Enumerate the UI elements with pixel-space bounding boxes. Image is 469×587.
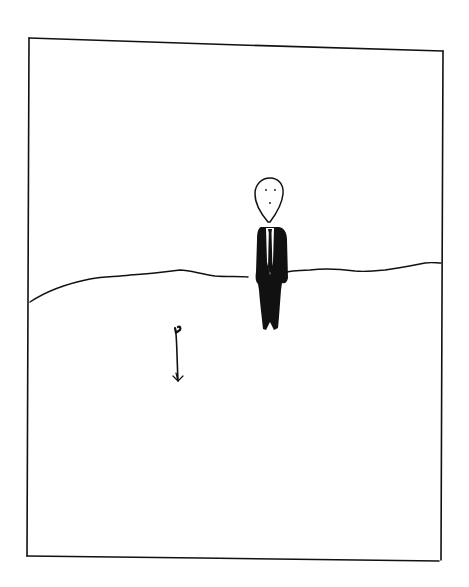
mouth — [269, 202, 271, 204]
head — [255, 178, 283, 222]
eye-right — [274, 189, 276, 191]
illustration-canvas — [0, 0, 469, 587]
sprout-leaves — [175, 327, 180, 333]
sprout-plant — [173, 327, 183, 381]
eye-left — [265, 189, 267, 191]
horizon-line — [30, 263, 441, 302]
man-in-suit-figure — [255, 178, 288, 330]
panel-frame — [27, 38, 443, 561]
